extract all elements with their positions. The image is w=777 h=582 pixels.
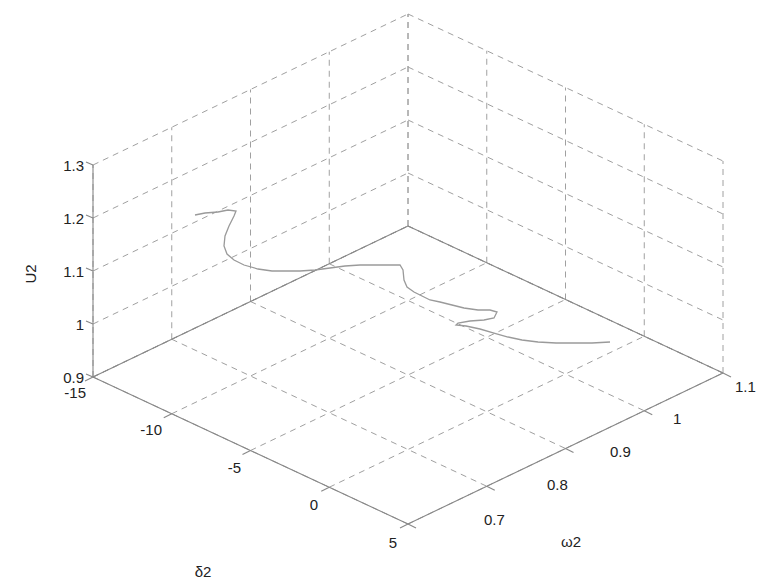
- 3d-line-plot: 0.9 1 1.1 1.2 1.3 -15 -10 -5 0 5 0.7 0.8…: [0, 0, 777, 582]
- trajectory-line: [195, 210, 610, 343]
- y-tick-1: 1: [673, 410, 681, 427]
- y-tick-0.8: 0.8: [547, 476, 568, 493]
- x-tick-mark: [400, 524, 408, 528]
- z-tick-mark: [86, 215, 93, 218]
- x-tick-mark: [243, 451, 251, 455]
- x-tick-mark: [85, 377, 93, 381]
- y-tick-mark: [723, 373, 731, 377]
- y-tick-0.7: 0.7: [484, 511, 505, 528]
- y-tick-mark: [566, 449, 574, 453]
- x-tick--5: -5: [228, 459, 241, 476]
- x-axis-label: δ2: [195, 563, 212, 580]
- y-tick-1.1: 1.1: [735, 378, 756, 395]
- x-tick--10: -10: [140, 421, 162, 438]
- floor-grid-y: [329, 264, 644, 411]
- z-tick-mark: [86, 321, 93, 324]
- z-tick-mark: [86, 268, 93, 271]
- back-floor-edge-right: [408, 226, 723, 373]
- z-tick-1.2: 1.2: [63, 210, 84, 227]
- tick-labels: 0.9 1 1.1 1.2 1.3 -15 -10 -5 0 5 0.7 0.8…: [63, 157, 756, 551]
- y-axis-label: ω2: [561, 533, 581, 550]
- x-tick-5: 5: [389, 534, 397, 551]
- z-tick-mark: [86, 374, 93, 377]
- z-tick-mark: [86, 162, 93, 165]
- floor-grid-y: [172, 339, 487, 486]
- floor-grid-x: [329, 336, 644, 487]
- back-floor-edge-left: [93, 226, 408, 377]
- x-tick-mark: [164, 414, 172, 418]
- x-tick-mark: [321, 487, 329, 491]
- floor-grid-x: [172, 263, 487, 414]
- z-tick-1.3: 1.3: [63, 157, 84, 174]
- axis-lines: [85, 162, 731, 528]
- z-tick-1.1: 1.1: [63, 263, 84, 280]
- x-tick--15: -15: [64, 384, 86, 401]
- z-tick-1: 1: [76, 316, 84, 333]
- x-tick-0: 0: [310, 496, 318, 513]
- floor-grid-x: [251, 300, 566, 451]
- z-axis-label: U2: [22, 264, 39, 283]
- floor-grid-y: [251, 302, 566, 449]
- y-tick-0.9: 0.9: [610, 443, 631, 460]
- y-tick-mark: [644, 411, 652, 415]
- y-tick-mark: [487, 486, 495, 490]
- y-tick-mark: [408, 524, 416, 528]
